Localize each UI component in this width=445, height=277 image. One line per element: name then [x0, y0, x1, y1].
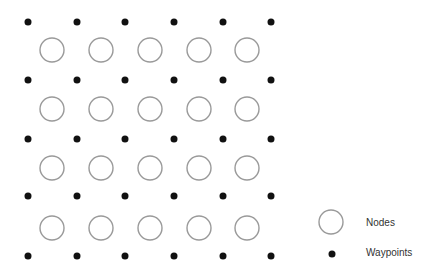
- legend-label-nodes: Nodes: [366, 217, 395, 228]
- legend-symbols: [0, 0, 445, 277]
- legend-node-icon: [319, 210, 343, 234]
- node-waypoint-diagram: Nodes Waypoints: [0, 0, 445, 277]
- legend-waypoint-icon: [329, 251, 336, 258]
- legend-label-waypoints: Waypoints: [366, 247, 412, 258]
